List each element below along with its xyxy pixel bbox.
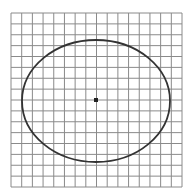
center-point-marker <box>94 98 98 102</box>
ellipse-grid-diagram <box>0 0 189 195</box>
